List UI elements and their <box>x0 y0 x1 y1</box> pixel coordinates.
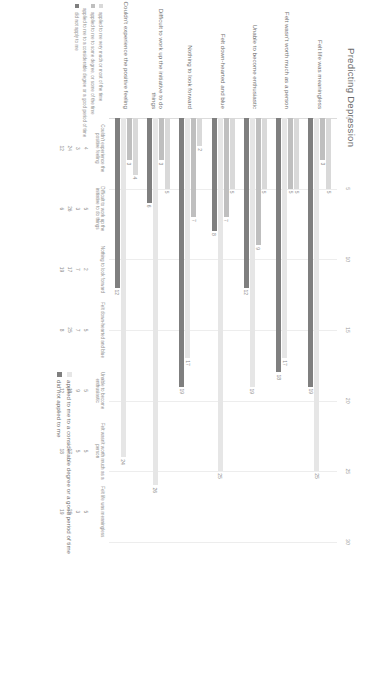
table-cell: 5 <box>84 481 89 542</box>
bar-row: 19 <box>179 118 184 542</box>
legend-item[interactable]: did not apply to me <box>73 4 81 116</box>
bar <box>133 118 138 175</box>
table-cell: 7 <box>76 300 81 361</box>
bar-row: 18 <box>276 118 281 542</box>
bar-group: 432412 <box>112 118 140 542</box>
table-cell: 12 <box>60 118 65 179</box>
bar-row: 4 <box>133 118 138 542</box>
category-label: Felt wasn't worth much as a person <box>274 0 302 114</box>
table-cell: 7 <box>76 239 81 300</box>
bar <box>327 118 332 189</box>
legend-item[interactable]: applied to me to a considerable degree o… <box>81 4 89 116</box>
bar <box>282 118 287 358</box>
table-cell: 3 <box>76 481 81 542</box>
category-axis-labels: Felt life was meaninglessFelt wasn't wor… <box>109 0 337 114</box>
table-cell: 6 <box>60 179 65 240</box>
bar <box>276 118 281 372</box>
bar <box>218 118 223 471</box>
bar-value-label: 12 <box>243 290 249 296</box>
table-cell: 17 <box>68 239 73 300</box>
legend-swatch-icon <box>58 372 63 377</box>
bar-value-label: 25 <box>217 473 223 479</box>
gridline <box>109 542 337 543</box>
bar <box>294 118 299 189</box>
bar-row: 5 <box>230 118 235 542</box>
legend-item-label: applied to me to a considerable degree o… <box>83 8 88 137</box>
legend-item-label: applied to me to some degree, or some of… <box>91 12 96 115</box>
bar-row: 19 <box>309 118 314 542</box>
bar <box>179 118 184 387</box>
bar-value-label: 18 <box>276 374 282 380</box>
category-label: Unable to become enthusiastic <box>241 0 269 114</box>
legend-item-label: applied to me very much or most of the t… <box>99 12 104 101</box>
x-tick-label: 0 <box>345 117 351 120</box>
bar-value-label: 8 <box>211 233 217 236</box>
bar-row: 17 <box>282 118 287 542</box>
table-cell: 25 <box>68 300 73 361</box>
bar-value-label: 19 <box>179 389 185 395</box>
table-column-header: Unable to become enthusiastic <box>90 360 105 421</box>
bar-value-label: 5 <box>229 191 235 194</box>
bar-value-label: 19 <box>249 389 255 395</box>
table-column-header: Felt wasn't worth much as a person <box>90 421 105 482</box>
x-tick-label: 5 <box>345 187 351 190</box>
bar <box>127 118 132 160</box>
bar <box>230 118 235 189</box>
bar <box>153 118 158 485</box>
table-row-legend: applied to me very much or most of the t… <box>73 4 105 116</box>
legend-item[interactable]: applied to me to a considerable degree o… <box>65 372 75 602</box>
legend-item[interactable]: applied to me very much or most of the t… <box>97 4 105 116</box>
bar-value-label: 17 <box>185 360 191 366</box>
bar-group: 591912 <box>241 118 269 542</box>
plot-area: 5325195517185919125725827171953266432412 <box>109 118 337 542</box>
legend-item[interactable]: did not applied to me <box>55 372 65 602</box>
x-axis-tick-labels: 051015202530 <box>339 118 351 542</box>
x-tick-label: 25 <box>345 468 351 474</box>
bar-value-label: 7 <box>191 219 197 222</box>
bar-row: 2 <box>197 118 202 542</box>
bar-row: 5 <box>327 118 332 542</box>
bar-row: 5 <box>294 118 299 542</box>
bar <box>224 118 229 217</box>
bar-value-label: 19 <box>308 389 314 395</box>
bar <box>262 118 267 189</box>
bar-row: 7 <box>224 118 229 542</box>
table-cell: 3 <box>76 179 81 240</box>
bar <box>115 118 120 288</box>
bar-value-label: 12 <box>114 290 120 296</box>
bar-group: 271719 <box>177 118 205 542</box>
bar-value-label: 3 <box>320 162 326 165</box>
bar <box>191 118 196 217</box>
bar-row: 9 <box>256 118 261 542</box>
bar-row: 17 <box>185 118 190 542</box>
bar-row: 24 <box>121 118 126 542</box>
bar <box>212 118 217 231</box>
bar-row: 26 <box>153 118 158 542</box>
bar <box>197 118 202 146</box>
bar-row: 8 <box>212 118 217 542</box>
category-label: Felt life was meaningless <box>306 0 334 114</box>
bar <box>250 118 255 387</box>
table-cell: 9 <box>76 360 81 421</box>
bar-value-label: 6 <box>146 205 152 208</box>
bar-row: 25 <box>315 118 320 542</box>
x-tick-label: 20 <box>345 398 351 404</box>
legend-item-label: did not applied to me <box>57 380 64 437</box>
bar-row: 5 <box>165 118 170 542</box>
bar-group: 551718 <box>274 118 302 542</box>
table-cell: 5 <box>76 421 81 482</box>
bar <box>256 118 261 245</box>
table-cell: 19 <box>60 239 65 300</box>
table-column-header: Couldn't experience the positive feeling <box>90 118 105 179</box>
rotated-figure-wrapper: Predicting Depression 051015202530 Felt … <box>0 0 371 675</box>
chart-figure: Predicting Depression 051015202530 Felt … <box>0 0 371 675</box>
bar <box>147 118 152 203</box>
table-cell: 8 <box>60 300 65 361</box>
table-row: 4525555 <box>82 118 90 542</box>
bar <box>288 118 293 189</box>
legend-item[interactable]: applied to me to some degree, or some of… <box>89 4 97 116</box>
x-tick-label: 15 <box>345 327 351 333</box>
table-column-header: Felt life was meaningless <box>90 481 105 542</box>
table-column-header: Difficult to work up the initiative to d… <box>90 179 105 240</box>
x-tick-label: 10 <box>345 256 351 262</box>
